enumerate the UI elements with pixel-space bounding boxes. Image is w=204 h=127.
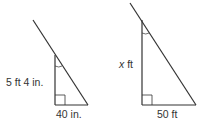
- left-base-label: 40 in.: [56, 108, 82, 120]
- right-vertical-label: x ft: [119, 58, 133, 70]
- right-base-label: 50 ft: [157, 108, 177, 120]
- left-angle-arc: [55, 66, 62, 67]
- left-vertical-label: 5 ft 4 in.: [6, 76, 43, 88]
- right-angle-arc: [142, 33, 149, 34]
- right-right-angle-mark: [142, 95, 152, 105]
- vertical-unit: ft: [124, 58, 133, 70]
- left-right-angle-mark: [55, 95, 65, 105]
- left-triangle: [33, 20, 88, 105]
- right-triangle: [130, 3, 196, 105]
- left-hypotenuse-line: [33, 20, 88, 105]
- right-hypotenuse-line: [130, 3, 196, 105]
